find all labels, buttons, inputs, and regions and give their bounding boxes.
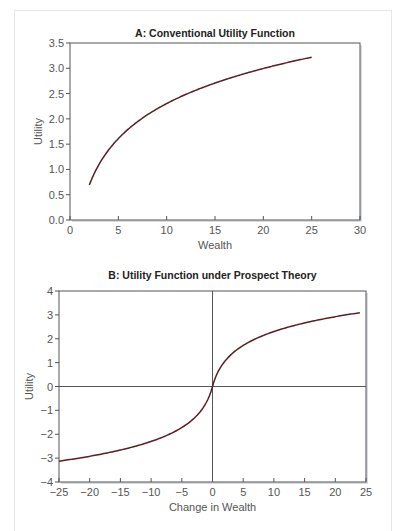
x-tick-label: 10 [268, 486, 280, 498]
x-tick-label: 30 [354, 224, 366, 236]
y-tick-label: 2.0 [49, 113, 64, 125]
y-tick-label: 2.5 [49, 88, 64, 100]
x-tick-label: 15 [209, 224, 221, 236]
y-axis-label: Utility [23, 373, 35, 400]
y-tick-label: 1.0 [49, 163, 64, 175]
x-tick-label: 10 [161, 224, 173, 236]
x-tick-label: 25 [360, 486, 372, 498]
y-tick-label: −1 [40, 404, 53, 416]
y-tick-label: 4 [47, 285, 53, 297]
y-axis-label: Utility [32, 118, 44, 145]
chart-title: B: Utility Function under Prospect Theor… [108, 269, 316, 281]
plot-area [70, 43, 360, 220]
x-tick-label: 15 [298, 486, 310, 498]
x-tick-label: 5 [240, 486, 246, 498]
x-tick-label: −5 [176, 486, 189, 498]
y-tick-label: 1.5 [49, 138, 64, 150]
y-tick-label: 0.0 [49, 214, 64, 226]
x-tick-label: −10 [142, 486, 161, 498]
x-axis-label: Wealth [198, 239, 232, 251]
x-tick-label: 0 [67, 224, 73, 236]
y-tick-label: −4 [40, 476, 53, 488]
y-tick-label: 0.5 [49, 189, 64, 201]
x-tick-label: 20 [329, 486, 341, 498]
y-tick-label: 3.5 [49, 37, 64, 49]
y-tick-label: 1 [47, 357, 53, 369]
y-tick-label: 2 [47, 333, 53, 345]
y-tick-label: 0 [47, 381, 53, 393]
x-tick-label: 20 [257, 224, 269, 236]
x-tick-label: 5 [115, 224, 121, 236]
chart-title: A: Conventional Utility Function [135, 27, 295, 39]
x-tick-label: 0 [209, 486, 215, 498]
x-tick-label: −20 [80, 486, 99, 498]
chart-prospect-theory-utility: B: Utility Function under Prospect Theor… [0, 258, 397, 515]
y-tick-label: −2 [40, 428, 53, 440]
x-tick-label: 25 [306, 224, 318, 236]
x-axis-label: Change in Wealth [169, 501, 256, 513]
y-tick-label: 3.0 [49, 62, 64, 74]
x-tick-label: −15 [111, 486, 130, 498]
y-tick-label: 3 [47, 309, 53, 321]
chart-conventional-utility: A: Conventional Utility Function05101520… [0, 0, 397, 258]
y-tick-label: −3 [40, 452, 53, 464]
